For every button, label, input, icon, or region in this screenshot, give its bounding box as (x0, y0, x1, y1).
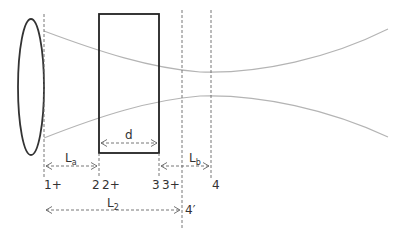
plane-3plus-label: 3+ (162, 178, 180, 192)
Lb-label: Lb (189, 151, 201, 167)
La-label: La (65, 151, 77, 167)
plane-4prime-label: 4′ (185, 203, 196, 217)
plane-4-label: 4 (212, 178, 220, 192)
L2-label: L2 (107, 196, 119, 212)
beam-upper-edge (44, 29, 388, 72)
lens-ellipse (18, 19, 44, 155)
plane-1plus-label: 1+ (44, 178, 62, 192)
beam-lower-edge (44, 96, 388, 138)
plane-3-label: 3 (152, 178, 160, 192)
diagram-canvas: d La Lb L2 1+ 2 2+ 3 3+ 4 4′ (0, 0, 404, 238)
d-label: d (125, 128, 133, 142)
plane-2-label: 2 (92, 178, 100, 192)
plane-2plus-label: 2+ (102, 178, 120, 192)
